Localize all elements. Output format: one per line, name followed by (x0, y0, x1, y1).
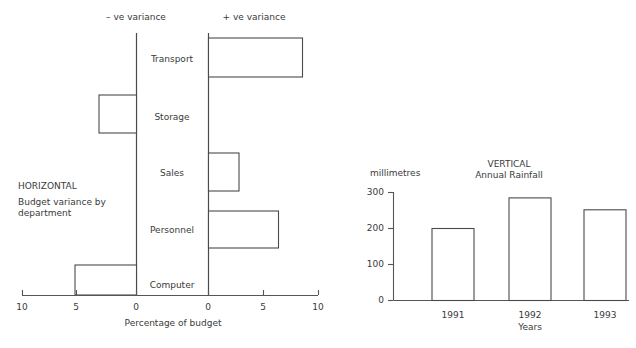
positive-variance-header: + ve variance (223, 12, 286, 22)
negative-variance-header: – ve variance (106, 12, 166, 22)
hbar-sales (209, 153, 240, 191)
vbar-1992 (509, 198, 551, 301)
htick-label-neg5: 5 (73, 302, 79, 312)
horizontal-caption-title: HORIZONTAL (18, 181, 77, 191)
vbar-1991 (432, 229, 474, 301)
vtick-label-1991: 1991 (442, 310, 465, 320)
vertical-title-line1: VERTICAL (487, 159, 530, 169)
vtick-label-300: 300 (367, 187, 384, 197)
vtick-label-200: 200 (367, 223, 384, 233)
hcat-label-transport: Transport (150, 54, 194, 64)
htick-label-neg10: 10 (16, 302, 28, 312)
hcat-label-storage: Storage (154, 112, 190, 122)
htick-label-pos10: 10 (312, 302, 324, 312)
htick-label-pos5: 5 (260, 302, 266, 312)
vbar-1993 (584, 210, 626, 301)
hcat-label-personnel: Personnel (150, 225, 194, 235)
horizontal-caption-line1: Budget variance by (18, 197, 107, 207)
hcat-label-sales: Sales (160, 168, 184, 178)
horizontal-caption-line2: department (18, 208, 72, 218)
vertical-yaxis-label: millimetres (370, 168, 421, 178)
vtick-label-1992: 1992 (519, 310, 542, 320)
hbar-storage (99, 95, 137, 133)
vtick-label-100: 100 (367, 259, 384, 269)
hbar-personnel (209, 211, 279, 248)
hbar-transport (209, 38, 303, 77)
vtick-label-1993: 1993 (594, 310, 617, 320)
horizontal-chart-panel: – ve variance + ve variance Transport St… (16, 12, 324, 328)
hbar-computer (75, 265, 137, 295)
vtick-label-0: 0 (378, 295, 384, 305)
horizontal-xaxis-label: Percentage of budget (125, 318, 222, 328)
hcat-label-computer: Computer (150, 280, 195, 290)
htick-label-neg0: 0 (133, 302, 139, 312)
vertical-chart-panel: millimetres VERTICAL Annual Rainfall 300… (367, 159, 629, 332)
figure-canvas: – ve variance + ve variance Transport St… (0, 0, 636, 348)
vertical-title-line2: Annual Rainfall (475, 170, 543, 180)
htick-label-pos0: 0 (205, 302, 211, 312)
vertical-xaxis-label: Years (517, 322, 542, 332)
